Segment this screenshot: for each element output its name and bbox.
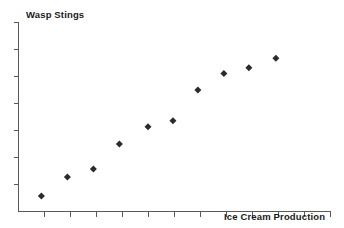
scatter-chart-figure: Wasp Stings Ice Cream Production xyxy=(0,0,344,228)
data-point-marker xyxy=(116,141,123,148)
data-point-marker xyxy=(64,173,71,180)
axes-group xyxy=(19,23,331,212)
y-axis-title: Wasp Stings xyxy=(26,9,84,20)
data-point-marker xyxy=(38,193,45,200)
x-axis-title: Ice Cream Production xyxy=(224,211,325,222)
data-point-marker xyxy=(144,123,151,130)
data-point-marker xyxy=(169,117,176,124)
data-point-marker xyxy=(220,70,227,77)
data-point-marker xyxy=(194,87,201,94)
plot-area xyxy=(0,0,344,228)
data-points-group xyxy=(38,55,280,200)
data-point-marker xyxy=(272,55,279,62)
data-point-marker xyxy=(90,166,97,173)
data-point-marker xyxy=(245,64,252,71)
